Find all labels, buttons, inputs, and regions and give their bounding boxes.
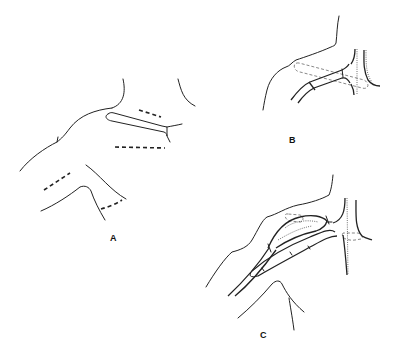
panel-c-drawing bbox=[206, 175, 372, 330]
panel-label-c: C bbox=[260, 331, 267, 340]
panel-label-b: B bbox=[289, 136, 296, 145]
panel-label-a: A bbox=[110, 234, 117, 243]
figure-canvas bbox=[0, 0, 397, 352]
panel-b-drawing bbox=[263, 16, 380, 110]
panel-a-drawing bbox=[20, 79, 195, 220]
